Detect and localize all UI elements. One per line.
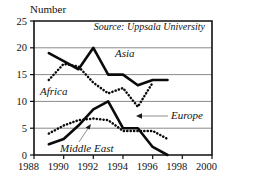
y-tick-labels: 25 20 15 10 5 0 bbox=[17, 16, 28, 161]
y-tick-0: 0 bbox=[22, 150, 27, 161]
europe-annotation: Europe bbox=[136, 109, 203, 121]
source-note: Source: Uppsala University bbox=[94, 21, 206, 32]
x-tick-1992: 1992 bbox=[77, 161, 98, 172]
x-tick-1996: 1996 bbox=[137, 161, 158, 172]
x-tick-1988: 1988 bbox=[18, 161, 39, 172]
middle-east-leader-line bbox=[79, 127, 89, 142]
chart-container: Number 25 20 15 10 5 0 bbox=[0, 0, 266, 181]
y-axis-label: Number bbox=[30, 3, 66, 15]
x-tick-1994: 1994 bbox=[107, 161, 129, 172]
x-tick-labels: 1988 1990 1992 1994 1996 1998 2000 bbox=[18, 161, 217, 172]
series-path-asia bbox=[49, 48, 168, 86]
x-tick-1990: 1990 bbox=[48, 161, 69, 172]
series-label-africa: Africa bbox=[39, 85, 68, 97]
x-tick-2000: 2000 bbox=[196, 161, 217, 172]
y-tick-20: 20 bbox=[17, 42, 28, 53]
y-tick-10: 10 bbox=[17, 96, 28, 107]
y-tick-5: 5 bbox=[22, 123, 27, 134]
y-tick-25: 25 bbox=[17, 16, 28, 27]
x-tick-1998: 1998 bbox=[166, 161, 187, 172]
y-tick-15: 15 bbox=[17, 69, 28, 80]
series-label-europe: Europe bbox=[170, 109, 203, 121]
series-label-middle-east: Middle East bbox=[59, 142, 114, 154]
line-chart: Number 25 20 15 10 5 0 bbox=[0, 0, 266, 181]
series-label-asia: Asia bbox=[114, 47, 135, 59]
europe-leader-arrow bbox=[136, 113, 142, 119]
